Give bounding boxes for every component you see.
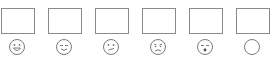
rating-box[interactable]: [1, 8, 35, 34]
rating-box[interactable]: [95, 8, 129, 34]
confused-face-icon: [102, 38, 120, 56]
rating-box[interactable]: [189, 8, 223, 34]
relieved-face-icon: [55, 38, 73, 56]
rating-box[interactable]: [48, 8, 82, 34]
surprised-face-icon: [196, 38, 214, 56]
rating-option-very-happy[interactable]: [0, 0, 40, 58]
blank-circle-icon: [243, 38, 261, 56]
rating-box[interactable]: [236, 8, 270, 34]
rating-option-sad[interactable]: [141, 0, 181, 58]
rating-box[interactable]: [142, 8, 176, 34]
rating-option-content[interactable]: [47, 0, 87, 58]
rating-option-neutral[interactable]: [94, 0, 134, 58]
sad-face-icon: [149, 38, 167, 56]
rating-option-blank[interactable]: [235, 0, 275, 58]
rating-option-shocked[interactable]: [188, 0, 228, 58]
grinning-face-icon: [8, 38, 26, 56]
